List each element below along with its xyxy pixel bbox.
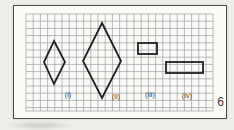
scan-smudge-artifact — [4, 121, 76, 130]
page-number: 6 — [217, 96, 224, 108]
shape-label-ii: (ii) — [112, 92, 121, 101]
grid-paper-figure: (i)(ii)(iii)(iv) — [0, 0, 234, 130]
shape-label-iv: (iv) — [182, 91, 193, 100]
shape-label-i: (i) — [65, 90, 72, 99]
shape-label-iii: (iii) — [145, 90, 155, 99]
rhombus-ii-shape — [83, 23, 121, 98]
